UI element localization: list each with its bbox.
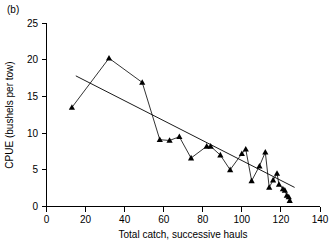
figure-panel-b: (b) 0510152025 020406080100120140 Total … bbox=[0, 0, 331, 243]
data-point-marker bbox=[157, 136, 163, 142]
data-point-marker bbox=[139, 79, 145, 85]
panel-label: (b) bbox=[7, 4, 19, 15]
y-tick-label: 15 bbox=[27, 91, 39, 102]
y-tick-label: 5 bbox=[32, 164, 38, 175]
data-point-marker bbox=[274, 170, 280, 176]
cpue-scatter-line-chart: 0510152025 020406080100120140 Total catc… bbox=[0, 0, 331, 243]
y-axis-title: CPUE (bushels per tow) bbox=[4, 61, 15, 168]
x-tick-label: 100 bbox=[234, 214, 251, 225]
x-tick-label: 20 bbox=[80, 214, 92, 225]
x-axis-ticks: 020406080100120140 bbox=[44, 207, 329, 226]
data-point-marker bbox=[266, 184, 272, 190]
data-point-marker bbox=[249, 178, 255, 184]
data-point-marker bbox=[256, 163, 262, 169]
x-tick-label: 60 bbox=[158, 214, 170, 225]
data-point-marker bbox=[188, 155, 194, 161]
x-tick-label: 40 bbox=[119, 214, 131, 225]
x-tick-label: 0 bbox=[44, 214, 50, 225]
data-point-marker bbox=[276, 181, 282, 187]
x-tick-label: 80 bbox=[197, 214, 209, 225]
x-tick-label: 140 bbox=[312, 214, 329, 225]
data-point-marker bbox=[106, 55, 112, 61]
y-tick-label: 20 bbox=[27, 54, 39, 65]
data-point-marker bbox=[176, 134, 182, 140]
y-tick-label: 0 bbox=[32, 201, 38, 212]
y-axis-ticks: 0510152025 bbox=[27, 18, 47, 213]
trend-line bbox=[76, 76, 295, 188]
x-tick-label: 120 bbox=[273, 214, 290, 225]
data-point-marker bbox=[243, 146, 249, 152]
data-point-marker bbox=[262, 149, 268, 155]
y-tick-label: 10 bbox=[27, 128, 39, 139]
y-tick-label: 25 bbox=[27, 18, 39, 29]
x-axis-title: Total catch, successive hauls bbox=[119, 229, 248, 240]
